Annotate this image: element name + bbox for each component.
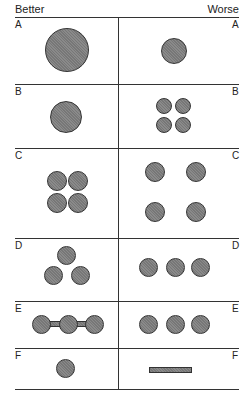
circle-icon bbox=[57, 246, 76, 265]
circle-icon bbox=[47, 193, 67, 213]
circle-icon bbox=[44, 266, 63, 285]
circle-icon bbox=[156, 117, 172, 133]
row-label-e-right: E bbox=[232, 303, 239, 314]
circle-icon bbox=[56, 359, 75, 378]
header-better: Better bbox=[15, 3, 44, 15]
row-label-c-right: C bbox=[232, 150, 239, 161]
circle-icon bbox=[166, 315, 185, 334]
circle-icon bbox=[47, 171, 67, 191]
divider bbox=[15, 301, 239, 302]
circle-icon bbox=[145, 162, 165, 182]
circle-icon bbox=[85, 315, 104, 334]
divider bbox=[15, 238, 239, 239]
center-divider bbox=[118, 17, 119, 389]
divider bbox=[15, 148, 239, 149]
circle-icon bbox=[166, 258, 185, 277]
divider bbox=[15, 348, 239, 349]
row-label-e-left: E bbox=[15, 303, 22, 314]
circle-icon bbox=[59, 315, 78, 334]
row-label-f-right: F bbox=[232, 350, 238, 361]
circle-icon bbox=[186, 162, 206, 182]
horizontal-bar bbox=[149, 367, 192, 373]
divider bbox=[15, 389, 239, 390]
row-label-a-right: A bbox=[232, 19, 239, 30]
divider bbox=[15, 17, 239, 18]
circle-icon bbox=[68, 193, 88, 213]
circle-icon bbox=[68, 171, 88, 191]
circle-icon bbox=[186, 202, 206, 222]
circle-icon bbox=[191, 315, 210, 334]
circle-icon bbox=[145, 202, 165, 222]
circle-icon bbox=[45, 28, 89, 72]
row-label-c-left: C bbox=[15, 150, 22, 161]
circle-icon bbox=[50, 101, 82, 133]
circle-icon bbox=[139, 258, 158, 277]
header-worse: Worse bbox=[207, 3, 239, 15]
row-label-d-right: D bbox=[232, 240, 239, 251]
circle-icon bbox=[175, 117, 191, 133]
row-label-f-left: F bbox=[15, 350, 21, 361]
divider bbox=[15, 84, 239, 85]
row-label-d-left: D bbox=[15, 240, 22, 251]
row-label-b-left: B bbox=[15, 86, 22, 97]
circle-icon bbox=[161, 38, 187, 64]
circle-icon bbox=[32, 315, 51, 334]
row-label-a-left: A bbox=[15, 19, 22, 30]
row-label-b-right: B bbox=[232, 86, 239, 97]
circle-icon bbox=[175, 98, 191, 114]
circle-icon bbox=[71, 266, 90, 285]
circle-icon bbox=[191, 258, 210, 277]
circle-icon bbox=[139, 315, 158, 334]
circle-icon bbox=[156, 98, 172, 114]
